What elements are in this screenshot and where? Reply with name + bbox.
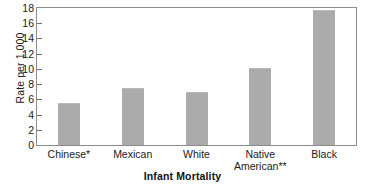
bar: [249, 68, 271, 145]
bar-chart: Rate per 1,000 024681012141618 Chinese*M…: [0, 0, 365, 186]
bars-layer: [37, 8, 356, 145]
bar: [313, 10, 335, 145]
y-axis-tick-label: 4: [12, 110, 34, 120]
x-axis-category-label: Black: [274, 149, 365, 161]
y-axis-tick-label: 2: [12, 125, 34, 135]
bar: [186, 92, 208, 145]
bar: [58, 103, 80, 145]
y-axis-tick-label: 10: [12, 64, 34, 74]
y-axis-tick-label: 8: [12, 79, 34, 89]
y-axis-tick-label: 14: [12, 33, 34, 43]
y-axis-tick-label: 6: [12, 94, 34, 104]
chart-title: Infant Mortality: [0, 170, 365, 182]
y-axis-tick-label: 12: [12, 49, 34, 59]
y-axis-tick-label: 18: [12, 3, 34, 13]
y-axis-tick-label: 16: [12, 18, 34, 28]
bar: [122, 88, 144, 145]
